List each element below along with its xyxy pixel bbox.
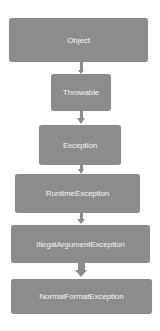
node-label: IllegalArgumentException <box>36 240 124 249</box>
node-exception: Exception <box>39 125 121 165</box>
node-label: Exception <box>63 141 97 150</box>
node-label: RuntimeException <box>46 189 109 198</box>
node-illegal-argument-exception: IllegalArgumentException <box>11 225 150 263</box>
arrow-head-icon <box>75 270 87 277</box>
node-label: Throwable <box>63 88 99 97</box>
node-object: Object <box>9 18 148 62</box>
node-label: Object <box>67 36 90 45</box>
node-throwable: Throwable <box>51 74 111 111</box>
node-normal-format-exception: NormalFormatException <box>11 279 152 314</box>
node-runtime-exception: RuntimeException <box>15 174 140 213</box>
arrow-head-icon <box>77 118 85 124</box>
arrow-head-icon <box>77 219 85 224</box>
node-label: NormalFormatException <box>39 292 123 301</box>
